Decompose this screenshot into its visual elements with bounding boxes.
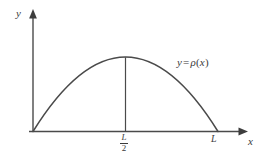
fraction-half-L: L 2 [120,133,127,153]
x-axis-arrowhead [239,128,249,136]
equation-close-paren: ) [205,56,209,68]
x-axis-label: x [248,136,253,147]
y-axis-label: y [16,8,21,19]
fraction-numerator: L [120,133,127,144]
x-tick-label-half-L: L 2 [111,133,137,153]
figure-container: y x y=ρ(x) L L 2 [0,0,259,163]
y-axis-arrowhead [29,9,37,19]
equation-equals-sign: = [182,56,190,68]
curve-equation-label: y=ρ(x) [177,57,209,68]
x-tick-label-L: L [211,134,217,144]
fraction-denominator: 2 [120,144,127,154]
